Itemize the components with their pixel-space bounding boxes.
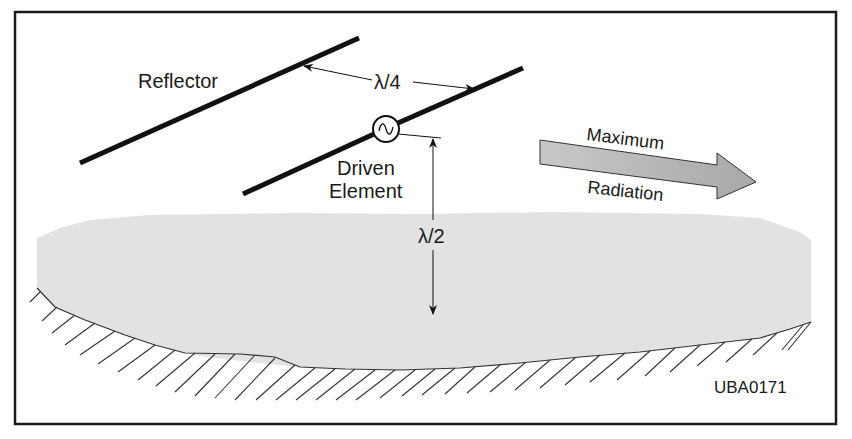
- quarter-wave-label: λ/4: [374, 71, 401, 93]
- driven-label-line2: Element: [329, 180, 403, 202]
- half-wave-label: λ/2: [418, 225, 445, 247]
- reflector-label: Reflector: [138, 70, 218, 92]
- driven-label-line1: Driven: [337, 157, 395, 179]
- figure-id: UBA0171: [714, 378, 787, 397]
- antenna-diagram: Reflector Driven Element λ/4 λ/2 Maximum…: [0, 0, 852, 439]
- ac-source-icon: [373, 116, 399, 142]
